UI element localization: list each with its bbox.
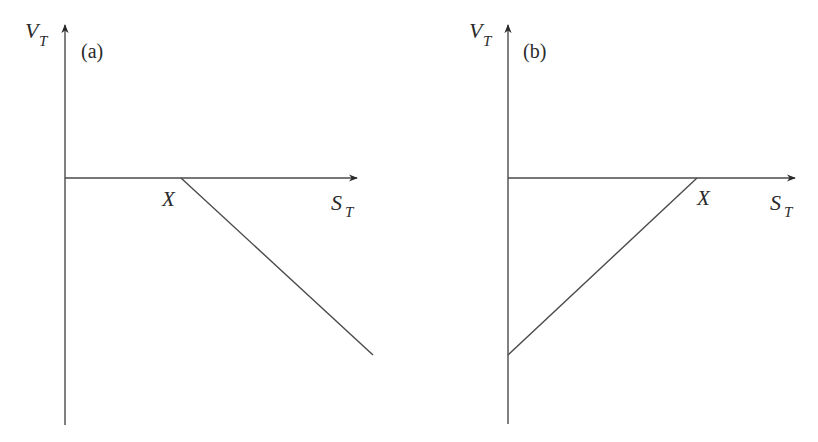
payoff-line (508, 178, 697, 355)
figure: V T (a) X S T V T (b) X S T (0, 0, 818, 442)
y-axis-label-sub: T (39, 33, 49, 49)
panel-tag: (b) (523, 40, 546, 63)
panel-tag: (a) (81, 40, 103, 63)
y-axis-label-sub: T (483, 33, 493, 49)
strike-label: X (161, 187, 176, 211)
strike-label: X (696, 186, 711, 210)
panel-b: V T (b) X S T (469, 18, 795, 424)
x-axis-label-sub: T (784, 204, 794, 220)
panel-a: V T (a) X S T (25, 18, 373, 425)
x-axis-label-sub: T (345, 204, 355, 220)
x-axis-label: S (770, 190, 781, 215)
x-axis-label: S (331, 190, 342, 215)
